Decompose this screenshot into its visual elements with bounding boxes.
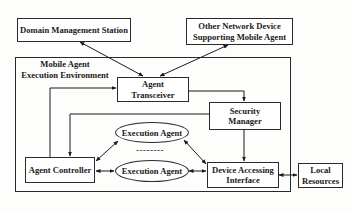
agent-transceiver-node: Agent Transceiver [117,77,189,102]
security-manager-node: Security Manager [209,102,281,130]
local-resources-label-line2: Resources [302,176,339,187]
device-accessing-interface-node: Device Accessing Interface [207,162,279,188]
local-resources-label-line1: Local [310,165,331,176]
local-resources-node: Local Resources [298,163,343,188]
security-manager-label-line2: Manager [228,116,261,127]
agent-transceiver-label-line2: Transceiver [131,90,174,101]
agent-controller-label: Agent Controller [29,165,92,176]
security-manager-label-line1: Security [230,106,261,117]
other-network-device-node: Other Network Device Supporting Mobile A… [186,18,293,45]
execution-agent-2-label: Execution Agent [122,166,182,176]
agent-controller-node: Agent Controller [25,157,95,183]
ellipsis-label: -------- [136,145,164,155]
agent-transceiver-label-line1: Agent [142,79,164,90]
other-network-device-label-line1: Other Network Device [198,21,280,32]
device-accessing-interface-label-line1: Device Accessing [212,165,274,176]
execution-agent-1-label: Execution Agent [122,128,182,138]
execution-environment-label: Mobile Agent Execution Environment [19,59,111,80]
diagram-canvas: Domain Management Station Other Network … [0,0,353,211]
execution-agent-1-node: Execution Agent [115,122,189,143]
execution-environment-label-line1: Mobile Agent [19,59,111,70]
execution-agent-2-node: Execution Agent [115,160,189,182]
domain-management-station-label: Domain Management Station [20,25,128,36]
ellipsis-separator: -------- [136,145,164,155]
device-accessing-interface-label-line2: Interface [226,175,259,186]
other-network-device-label-line2: Supporting Mobile Agent [193,32,286,43]
execution-environment-label-line2: Execution Environment [19,70,111,81]
domain-management-station-node: Domain Management Station [17,18,131,42]
